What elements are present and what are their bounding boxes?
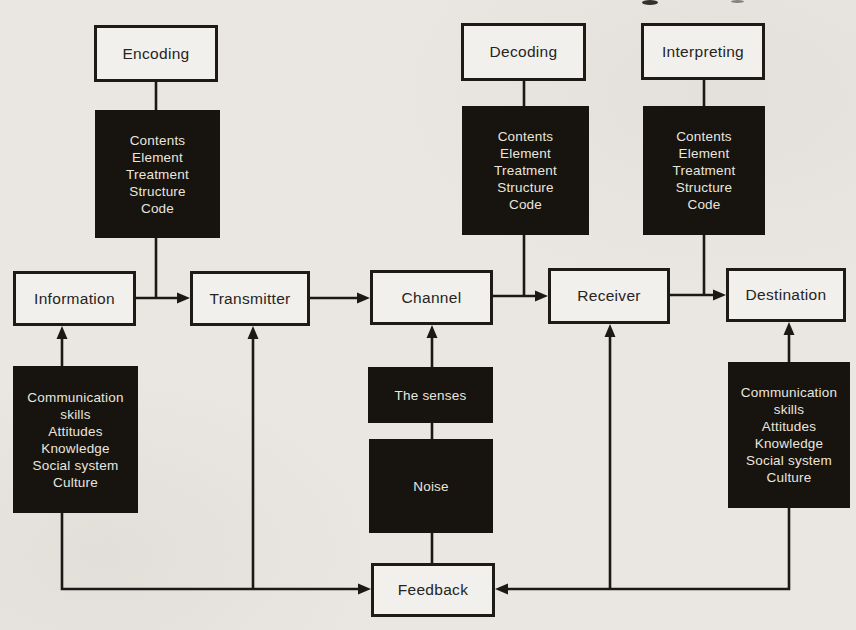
factor-item: Contents: [462, 128, 589, 145]
factor-item: Attitudes: [728, 418, 850, 435]
factor-item: Treatment: [95, 166, 220, 183]
factor-item: Contents: [95, 132, 220, 149]
noise-box: Noise: [369, 439, 493, 533]
senses-box: The senses: [368, 367, 493, 423]
factor-item: Culture: [728, 469, 850, 486]
feedback-box: Feedback: [371, 563, 495, 617]
feedback-label: Feedback: [398, 581, 468, 599]
arrow-receiver-to-destination: [670, 290, 726, 301]
arrow-receiver-factors-to-destination: [784, 322, 795, 362]
decoding-box: Decoding: [461, 23, 586, 81]
factor-item: Code: [462, 196, 589, 213]
source-factors-box: Communication skills Attitudes Knowledge…: [13, 366, 138, 513]
factor-item: Structure: [95, 183, 220, 200]
decoding-label: Decoding: [490, 43, 558, 61]
factor-item: Structure: [462, 179, 589, 196]
arrow-source-factors-to-information: [57, 326, 68, 366]
factor-item: Code: [95, 200, 220, 217]
information-label: Information: [34, 290, 115, 308]
factor-item: Knowledge: [728, 435, 850, 452]
factor-item: Element: [95, 149, 220, 166]
encoding-box: Encoding: [94, 25, 218, 82]
arrow-senses-to-channel: [427, 325, 438, 367]
receiver-factors-box: Communication skills Attitudes Knowledge…: [728, 362, 850, 508]
arrow-transmitter-to-channel: [310, 293, 370, 304]
factor-item: Element: [643, 145, 765, 162]
receiver-box: Receiver: [548, 268, 670, 324]
arrow-information-to-transmitter: [136, 293, 190, 304]
factor-item: Attitudes: [13, 423, 138, 440]
interpreting-label: Interpreting: [662, 43, 744, 61]
receiver-label: Receiver: [577, 287, 641, 305]
factor-item: Treatment: [462, 162, 589, 179]
interpreting-box: Interpreting: [641, 23, 765, 80]
encoding-label: Encoding: [122, 45, 189, 63]
destination-label: Destination: [746, 286, 827, 304]
destination-box: Destination: [726, 268, 846, 322]
transmitter-label: Transmitter: [209, 290, 290, 308]
factor-item: Social system: [728, 452, 850, 469]
senses-label: The senses: [368, 387, 493, 404]
factor-item: Contents: [643, 128, 765, 145]
factor-item: Element: [462, 145, 589, 162]
message-factors-box-decoding: Contents Element Treatment Structure Cod…: [462, 106, 589, 235]
smcr-communication-model-diagram: Encoding Decoding Interpreting Contents …: [0, 0, 856, 630]
factor-item: Communication skills: [728, 384, 850, 418]
noise-label: Noise: [369, 478, 493, 495]
transmitter-box: Transmitter: [190, 271, 310, 326]
factor-item: Structure: [643, 179, 765, 196]
message-factors-box-encoding: Contents Element Treatment Structure Cod…: [95, 110, 220, 238]
arrow-channel-to-receiver: [493, 291, 548, 302]
factor-item: Treatment: [643, 162, 765, 179]
factor-item: Culture: [13, 474, 138, 491]
channel-box: Channel: [370, 270, 493, 325]
factor-item: Communication skills: [13, 389, 138, 423]
message-factors-box-interpreting: Contents Element Treatment Structure Cod…: [643, 106, 765, 235]
information-box: Information: [13, 271, 136, 326]
channel-label: Channel: [402, 289, 462, 307]
factor-item: Knowledge: [13, 440, 138, 457]
factor-item: Social system: [13, 457, 138, 474]
factor-item: Code: [643, 196, 765, 213]
